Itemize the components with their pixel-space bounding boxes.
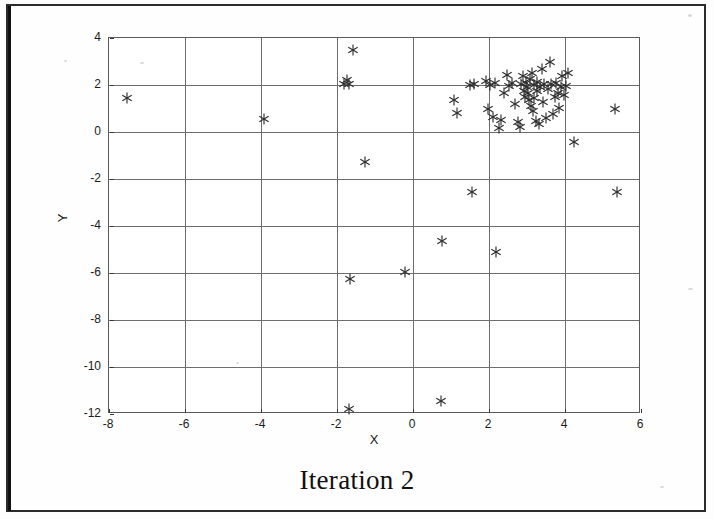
y-axis-tick-label: -8 [0,312,101,326]
data-point-marker [474,84,475,85]
data-point-marker [512,83,513,84]
data-point-marker [495,83,496,84]
gridline-vertical [261,38,262,412]
y-axis-tick [110,367,114,368]
x-axis-tick [565,409,566,413]
gridline-horizontal [109,320,639,321]
data-point-marker [454,100,455,101]
scan-artifact [688,288,693,290]
scan-artifact [64,60,67,62]
y-axis-tick [110,273,114,274]
data-point-marker [501,120,502,121]
data-point-marker [442,241,443,242]
gridline-vertical [185,38,186,412]
y-axis-tick-label: -2 [0,171,101,185]
x-axis-tick [185,409,186,413]
data-point-marker [515,104,516,105]
data-point-marker [127,98,128,99]
data-point-marker [405,272,406,273]
data-point-marker [566,86,567,87]
scatter-plot-figure: Y X Iteration 2 -8-6-4-20246-12-10-8-6-4… [0,0,714,519]
x-axis-tick-label: -6 [179,417,190,431]
x-axis-tick-label: 4 [561,417,568,431]
data-point-marker [457,113,458,114]
gridline-horizontal [109,179,639,180]
data-point-marker [344,84,345,85]
scan-artifact [688,14,692,17]
data-point-marker [520,127,521,128]
x-axis-tick [489,409,490,413]
y-axis-tick-label: -6 [0,265,101,279]
y-axis-tick [110,38,114,39]
y-axis-tick-label: 4 [0,30,101,44]
gridline-vertical [413,38,414,412]
x-axis-tick [261,409,262,413]
x-axis-tick [109,409,110,413]
data-point-marker [499,128,500,129]
data-point-marker [441,401,442,402]
screenshot-page: Y X Iteration 2 -8-6-4-20246-12-10-8-6-4… [0,0,714,519]
x-axis-tick-label: 0 [409,417,416,431]
data-point-marker [550,62,551,63]
y-axis-tick-label: -10 [0,359,101,373]
data-point-marker [564,95,565,96]
x-axis-title: X [370,432,379,447]
x-axis-tick-label: -4 [255,417,266,431]
data-point-marker [568,73,569,74]
x-axis-tick [413,409,414,413]
y-axis-tick-label: -12 [0,406,101,420]
gridline-horizontal [109,273,639,274]
data-point-marker [365,162,366,163]
gridline-vertical [337,38,338,412]
x-axis-tick-label: -2 [331,417,342,431]
y-axis-tick-label: 0 [0,124,101,138]
data-point-marker [349,409,350,410]
data-point-marker [533,111,534,112]
y-axis-tick [110,179,114,180]
gridline-vertical [489,38,490,412]
scan-artifact [140,62,144,64]
y-axis-tick [110,85,114,86]
data-point-marker [543,102,544,103]
x-axis-tick-label: -8 [103,417,114,431]
x-axis-tick [641,409,642,413]
x-axis-tick [337,409,338,413]
y-axis-tick-label: -4 [0,218,101,232]
data-point-marker [542,69,543,70]
y-axis-tick [110,226,114,227]
data-point-marker [472,192,473,193]
data-point-marker [532,73,533,74]
y-axis-tick-label: 2 [0,77,101,91]
y-axis-tick [110,132,114,133]
data-point-marker [615,109,616,110]
x-axis-tick-label: 2 [485,417,492,431]
data-point-marker [350,279,351,280]
data-point-marker [353,50,354,51]
gridline-horizontal [109,367,639,368]
gridline-horizontal [109,132,639,133]
data-point-marker [559,108,560,109]
y-axis-tick [110,414,114,415]
figure-caption: Iteration 2 [299,465,414,496]
gridline-horizontal [109,226,639,227]
data-point-marker [574,142,575,143]
scan-artifact [660,486,664,488]
data-point-marker [496,252,497,253]
data-point-marker [264,119,265,120]
y-axis-tick [110,320,114,321]
scan-artifact [236,362,239,364]
data-point-marker [617,192,618,193]
x-axis-tick-label: 6 [637,417,644,431]
